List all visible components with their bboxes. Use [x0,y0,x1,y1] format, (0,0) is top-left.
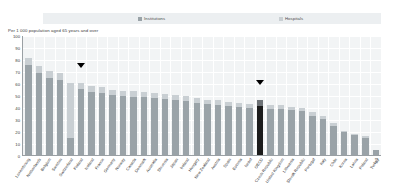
bar-stack [341,131,348,155]
bar-slot[interactable]: 69.7 [44,36,55,155]
bar-segment-institutions [36,73,43,155]
y-axis-tick: 80 [4,58,22,63]
bar-slot[interactable]: 26.4 [328,36,339,155]
bar-segment-institutions [362,138,369,155]
bar-slot[interactable]: 45.6 [255,36,266,155]
bar-segment-hospitals [57,73,64,80]
bar-slot[interactable]: 60.4 [76,36,87,155]
bar-stack [57,73,64,155]
bar-slot[interactable]: 46.2 [202,36,213,155]
legend-swatch-hospitals [279,17,283,21]
x-label-slot: Italy [318,157,329,193]
bar-slot[interactable]: 50.8 [160,36,171,155]
bar-slot[interactable]: 47.5 [192,36,203,155]
bar-stack [46,71,53,155]
x-axis-labels: LuxembourgNetherlandsBelgiumSwedenSwitze… [22,157,381,193]
x-label-slot: Poland [360,157,371,193]
bar-stack [267,105,274,155]
bar-slot[interactable]: 53.2 [128,36,139,155]
x-label-slot: Germany [107,157,118,193]
bar-stack [362,136,369,155]
bar-slot[interactable]: 80.8 [23,36,34,155]
bar-segment-institutions [78,89,85,155]
bar-slot[interactable]: 44.6 [223,36,234,155]
bar-segment-institutions [151,98,158,155]
bar-segment-institutions [373,150,380,155]
bar-slot[interactable]: 43.6 [234,36,245,155]
bar-slot[interactable]: 51.5 [149,36,160,155]
bar-segment-institutions [236,107,243,155]
bar-segment-institutions [46,78,53,155]
bar-slot[interactable]: 42.8 [244,36,255,155]
bar-segment-hospitals [46,71,53,78]
bar-segment-hospitals [36,66,43,73]
bar-slot[interactable]: 53.2 [118,36,129,155]
bar-stack [99,87,106,155]
bar-slot[interactable]: 17.9 [349,36,360,155]
bar-stack [25,58,32,155]
bar-slot[interactable]: 41.3 [276,36,287,155]
y-axis-tick: 30 [4,118,22,123]
x-label-slot: Belgium [43,157,54,193]
bar-slot[interactable]: 32.3 [318,36,329,155]
bar-segment-institutions [257,106,264,155]
bar-segment-institutions [130,97,137,155]
x-label-slot: Portugal [307,157,318,193]
plot-area: 80.874.069.768.159.860.457.256.554.353.2… [22,36,381,156]
bar-slot[interactable]: 59.8 [65,36,76,155]
bar-segment-institutions [194,103,201,155]
bar-slot[interactable]: 20.4 [339,36,350,155]
bar-stack [172,95,179,155]
bar-slot[interactable]: 4.3 [371,36,382,155]
x-axis-label: Iceland [83,157,95,171]
bar-slot[interactable]: 50.0 [170,36,181,155]
bar-segment-institutions [172,100,179,155]
bar-slot[interactable]: 74.0 [34,36,45,155]
y-axis-tick: 20 [4,130,22,135]
chart-container: Institutions Hospitals Per 1 000 populat… [0,0,400,193]
bar-stack [215,100,222,155]
bar-slot[interactable]: 45.8 [213,36,224,155]
chart-legend: Institutions Hospitals [43,13,381,24]
x-axis-label: Poland [358,157,369,170]
legend-label-institutions: Institutions [144,16,165,21]
bar-stack [299,108,306,155]
bar-segment-institutions [25,65,32,155]
bar-segment-institutions [320,119,327,155]
x-axis-label: Finland [72,157,84,171]
bar-segment-institutions [288,110,295,155]
bar-slot[interactable]: 52.2 [139,36,150,155]
bar-slot[interactable]: 42.0 [265,36,276,155]
x-label-slot: Latvia [349,157,360,193]
bar-stack [330,123,337,155]
y-axis-tick: 0 [4,154,22,159]
bar-stack [141,92,148,155]
bar-segment-institutions [162,99,169,155]
legend-item-institutions[interactable]: Institutions [138,16,165,21]
bar-segment-institutions [309,116,316,155]
legend-item-hospitals[interactable]: Hospitals [279,16,303,21]
bar-segment-institutions [204,104,211,155]
bar-stack [194,98,201,155]
bar-slot[interactable]: 57.2 [86,36,97,155]
bar-stack [309,112,316,155]
bar-slot[interactable]: 35.7 [307,36,318,155]
x-label-slot: Iceland [85,157,96,193]
bar-stack [204,100,211,155]
bar-segment-institutions [141,97,148,155]
bar-slot[interactable]: 48.8 [181,36,192,155]
bar-slot[interactable]: 15.5 [360,36,371,155]
bar-stack [109,90,116,155]
bar-segment-institutions [341,132,348,155]
y-axis-tick: 60 [4,82,22,87]
x-label-slot: Slovenia [159,157,170,193]
chart-subtitle: Per 1 000 population aged 65 years and o… [8,28,98,33]
bar-slot[interactable]: 54.3 [107,36,118,155]
bar-stack [78,83,85,155]
x-label-slot: Turkey [371,157,382,193]
bar-slot[interactable]: 40.0 [286,36,297,155]
bar-slot[interactable]: 39.3 [297,36,308,155]
bar-slot[interactable]: 56.5 [97,36,108,155]
x-label-slot: Denmark [138,157,149,193]
bar-slot[interactable]: 68.1 [55,36,66,155]
